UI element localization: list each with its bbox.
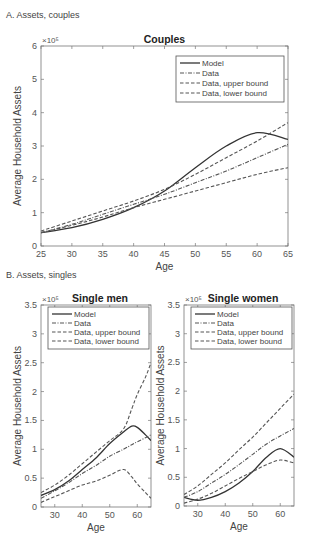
y-tick-label: 0.5 [167,472,180,482]
y-tick-label: 0 [32,502,37,512]
y-tick-label: 0 [175,501,180,511]
x-tick-label: 30 [67,249,77,259]
legend: ModelDataData, upper boundData, lower bo… [48,307,149,349]
y-tick-label: 4 [32,108,37,118]
y-tick-label: 3 [32,141,37,151]
chart-title: Couples [144,33,186,45]
legend-item: Data, lower bound [217,337,282,346]
y-tick-label: 1 [32,444,37,454]
legend: ModelDataData, upper boundData, lower bo… [191,307,292,349]
x-tick-label: 40 [77,510,87,520]
x-tick-label: 60 [275,509,285,519]
x-tick-label: 40 [129,249,139,259]
legend-item: Model [217,310,239,319]
y-exponent-label: ×10⁵ [42,36,59,45]
legend-item: Data, lower bound [202,89,267,98]
legend-item: Data [74,319,91,328]
x-axis-label: Age [87,522,105,533]
legend-item: Model [202,59,224,68]
x-tick-label: 50 [105,510,115,520]
legend-item: Data, lower bound [74,337,139,346]
legend-item: Data [217,319,234,328]
y-tick-label: 3 [32,329,37,339]
x-tick-label: 30 [193,509,203,519]
y-tick-label: 1 [175,444,180,454]
y-exponent-label: ×10⁵ [42,295,59,304]
x-tick-label: 60 [252,249,262,259]
y-tick-label: 3 [175,329,180,339]
x-tick-label: 60 [132,510,142,520]
y-tick-label: 2 [175,386,180,396]
chart-title: Single men [72,292,128,304]
y-tick-label: 1 [32,208,37,218]
x-tick-label: 35 [98,249,108,259]
legend-item: Data [202,69,219,78]
chart-couples: 2530354045505560650123456×10⁵CouplesAgeA… [12,33,293,272]
x-tick-label: 50 [248,509,258,519]
x-tick-label: 65 [283,249,293,259]
charts-canvas: 2530354045505560650123456×10⁵CouplesAgeA… [0,0,312,552]
x-tick-label: 25 [36,249,46,259]
legend: ModelDataData, upper boundData, lower bo… [176,56,284,102]
chart-single-men: 3040506000.511.522.533.5×10⁵Single menAg… [12,292,151,533]
x-axis-label: Age [156,261,174,272]
x-tick-label: 55 [221,249,231,259]
y-tick-label: 2 [32,174,37,184]
chart-single-women: 3040506000.511.522.533.5×10⁵Single women… [155,292,294,532]
y-tick-label: 3.5 [167,300,180,310]
y-tick-label: 1.5 [24,415,37,425]
y-tick-label: 0.5 [24,473,37,483]
legend-item: Data, upper bound [202,79,268,88]
y-axis-label: Average Household Assets [155,346,166,466]
x-tick-label: 45 [159,249,169,259]
y-tick-label: 2.5 [167,357,180,367]
y-tick-label: 2 [32,387,37,397]
y-tick-label: 5 [32,74,37,84]
y-axis-label: Average Household Assets [12,346,23,466]
legend-item: Data, upper bound [217,328,283,337]
y-exponent-label: ×10⁵ [185,295,202,304]
legend-item: Data, upper bound [74,328,140,337]
y-tick-label: 2.5 [24,358,37,368]
y-tick-label: 6 [32,41,37,51]
x-tick-label: 40 [220,509,230,519]
chart-title: Single women [208,292,279,304]
y-tick-label: 0 [32,241,37,251]
y-tick-label: 1.5 [167,415,180,425]
x-axis-label: Age [230,521,248,532]
x-tick-label: 50 [190,249,200,259]
y-tick-label: 3.5 [24,300,37,310]
legend-item: Model [74,310,96,319]
x-tick-label: 30 [50,510,60,520]
y-axis-label: Average Household Assets [12,86,23,206]
